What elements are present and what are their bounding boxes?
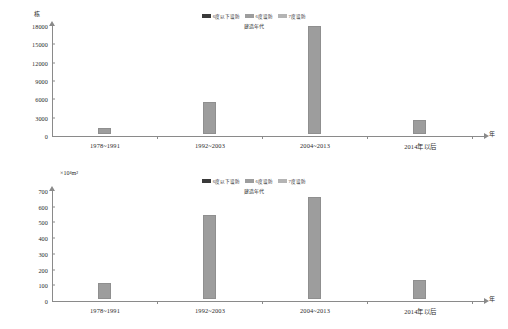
legend-label: 6度设防 — [256, 13, 273, 19]
legend-swatch-icon — [245, 14, 254, 18]
y-tick-mark — [52, 222, 55, 223]
y-tick-label: 9000 — [35, 78, 52, 85]
legend-item-2[interactable]: 7度设防 — [278, 178, 306, 184]
legend-item-0[interactable]: 6度以下设防 — [202, 13, 240, 19]
y-tick-mark — [52, 117, 55, 118]
y-tick-label: 400 — [38, 235, 52, 242]
bar-2004-2013 — [308, 197, 321, 299]
legend-label: 6度以下设防 — [213, 13, 240, 19]
bar-1992-2003 — [203, 215, 216, 299]
x-tick-mark — [367, 136, 368, 139]
plot-area-bottom: 0 100 200 300 400 500 600 700 — [52, 191, 476, 299]
x-tick-mark — [157, 301, 158, 304]
y-tick-mark — [52, 44, 55, 45]
y-tick-label: 500 — [38, 219, 52, 226]
x-tick-mark — [472, 301, 473, 304]
x-tick-label: 1978~1991 — [90, 307, 120, 314]
bar-group — [98, 283, 111, 299]
y-axis-unit-bottom: ×10⁴m² — [60, 170, 78, 176]
x-tick-label: 2014年以后 — [404, 307, 435, 316]
bar-group — [413, 120, 426, 134]
bar-group — [308, 26, 321, 134]
legend-swatch-icon — [245, 179, 254, 183]
x-tick-mark — [472, 136, 473, 139]
y-tick-mark — [52, 62, 55, 63]
x-axis-line-top — [52, 136, 484, 137]
y-tick-label: 100 — [38, 282, 52, 289]
bar-1978-1991 — [98, 283, 111, 299]
y-tick-label: 0 — [45, 298, 52, 305]
x-tick-label: 1992~2003 — [195, 142, 225, 149]
chart-building-area: ×10⁴m² 年 0 100 200 300 400 500 600 700 — [0, 165, 508, 329]
bar-2014-after — [413, 280, 426, 299]
x-axis-line-bottom — [52, 301, 484, 302]
legend-label: 6度以下设防 — [213, 178, 240, 184]
legend-swatch-icon — [202, 14, 211, 18]
x-tick-label: 1978~1991 — [90, 142, 120, 149]
bar-group — [413, 280, 426, 299]
y-tick-mark — [52, 206, 55, 207]
y-tick-label: 15000 — [32, 41, 52, 48]
x-tick-label: 2004~2013 — [300, 307, 330, 314]
legend-top: 6度以下设防 6度设防 7度设防 建造年代 — [189, 13, 319, 29]
legend-label: 7度设防 — [288, 178, 305, 184]
bar-1978-1991 — [98, 128, 111, 134]
legend-item-0[interactable]: 6度以下设防 — [202, 178, 240, 184]
y-tick-label: 3000 — [35, 114, 52, 121]
x-tick-mark — [367, 301, 368, 304]
x-tick-mark — [157, 136, 158, 139]
legend-swatch-icon — [278, 14, 287, 18]
y-tick-label: 700 — [38, 188, 52, 195]
legend-label: 6度设防 — [256, 178, 273, 184]
legend-item-2[interactable]: 7度设防 — [278, 13, 306, 19]
bar-group — [203, 215, 216, 299]
y-tick-label: 18000 — [32, 23, 52, 30]
bar-group — [203, 102, 216, 134]
bar-2014-after — [413, 120, 426, 134]
bar-2004-2013 — [308, 26, 321, 134]
y-tick-label: 600 — [38, 203, 52, 210]
bar-group — [98, 128, 111, 134]
bar-1992-2003 — [203, 102, 216, 134]
y-tick-label: 300 — [38, 250, 52, 257]
y-tick-mark — [52, 99, 55, 100]
x-axis-unit-top: 年 — [489, 129, 495, 138]
legend-bottom: 6度以下设防 6度设防 7度设防 建造年代 — [189, 178, 319, 194]
y-tick-mark — [52, 269, 55, 270]
chart-page: 栋 年 0 3000 6000 9000 12000 15000 18000 — [0, 0, 508, 329]
bar-group — [308, 197, 321, 299]
legend-swatch-icon — [278, 179, 287, 183]
y-tick-mark — [52, 253, 55, 254]
y-tick-label: 12000 — [32, 59, 52, 66]
x-tick-label: 2004~2013 — [300, 142, 330, 149]
x-tick-label: 2014年以后 — [404, 142, 435, 151]
x-tick-label: 1992~2003 — [195, 307, 225, 314]
x-tick-mark — [262, 136, 263, 139]
legend-subtitle: 建造年代 — [244, 187, 264, 194]
y-tick-label: 0 — [45, 133, 52, 140]
legend-subtitle: 建造年代 — [244, 22, 264, 29]
legend-label: 7度设防 — [288, 13, 305, 19]
y-axis-unit-top: 栋 — [34, 9, 40, 18]
chart-buildings-count: 栋 年 0 3000 6000 9000 12000 15000 18000 — [0, 0, 508, 164]
y-tick-mark — [52, 81, 55, 82]
legend-item-1[interactable]: 6度设防 — [245, 178, 273, 184]
y-tick-label: 200 — [38, 266, 52, 273]
plot-area-top: 0 3000 6000 9000 12000 15000 18000 — [52, 26, 476, 134]
y-tick-mark — [52, 238, 55, 239]
legend-row: 6度以下设防 6度设防 7度设防 — [202, 178, 305, 184]
legend-item-1[interactable]: 6度设防 — [245, 13, 273, 19]
y-tick-label: 6000 — [35, 96, 52, 103]
x-tick-mark — [262, 301, 263, 304]
legend-swatch-icon — [202, 179, 211, 183]
legend-row: 6度以下设防 6度设防 7度设防 — [202, 13, 305, 19]
y-tick-mark — [52, 285, 55, 286]
x-axis-unit-bottom: 年 — [489, 294, 495, 303]
